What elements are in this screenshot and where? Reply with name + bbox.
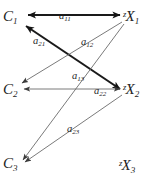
node-zx3-base: X <box>122 157 131 173</box>
edge-label-a21: a21 <box>33 31 45 48</box>
node-c2-sub: 2 <box>13 89 17 99</box>
node-zx1-base: X <box>126 8 135 24</box>
edge-a12-sub: 12 <box>86 41 93 49</box>
node-c3-base: C <box>3 155 13 171</box>
node-zx1-sub: 1 <box>135 16 139 26</box>
edge-label-a23: a23 <box>67 119 79 136</box>
node-c2-base: C <box>3 81 13 97</box>
node-label-c2: C2 <box>3 81 17 99</box>
node-label-c1: C1 <box>3 8 17 26</box>
edge-a13-sub: 13 <box>77 75 84 83</box>
edge-label-a12: a12 <box>81 32 93 49</box>
edge-label-a11: a11 <box>59 6 71 23</box>
node-c1-base: C <box>3 8 13 24</box>
edge-a11-sub: 11 <box>64 15 70 23</box>
node-zx3-sub: 3 <box>131 165 135 175</box>
edge-a21-sub: 21 <box>38 40 45 48</box>
node-label-zx3: zX3 <box>119 157 135 175</box>
edge-label-a22: a22 <box>94 81 106 98</box>
edge-label-a13: a13 <box>72 66 84 83</box>
path-diagram: C1 C2 C3 zX1 zX2 zX3 a11 a21 a12 a13 a22… <box>0 0 148 186</box>
edge-a22-sub: 22 <box>99 90 106 98</box>
node-zx2-base: X <box>126 81 135 97</box>
node-c3-sub: 3 <box>13 163 17 173</box>
node-c1-sub: 1 <box>13 16 17 26</box>
node-label-zx1: zX1 <box>123 8 139 26</box>
node-label-c3: C3 <box>3 155 17 173</box>
node-label-zx2: zX2 <box>123 81 139 99</box>
node-zx2-sub: 2 <box>135 89 139 99</box>
edge-a23-sub: 23 <box>72 128 79 136</box>
